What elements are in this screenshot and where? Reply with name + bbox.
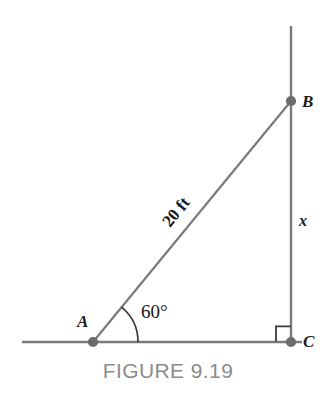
side-label-x: x bbox=[299, 213, 307, 229]
vertex-label-b: B bbox=[302, 93, 313, 110]
figure-caption: FIGURE 9.19 bbox=[0, 360, 336, 381]
vertex-label-a: A bbox=[77, 313, 88, 330]
vertex-label-c: C bbox=[303, 333, 314, 350]
angle-label-60: 60° bbox=[141, 302, 168, 321]
vertex-marker-a bbox=[88, 337, 98, 347]
vertex-marker-c bbox=[286, 337, 296, 347]
figure-container: A B C x 20 ft 60° FIGURE 9.19 bbox=[0, 0, 336, 403]
angle-arc-marker bbox=[122, 307, 138, 342]
geometry-diagram bbox=[0, 0, 336, 403]
vertex-marker-b bbox=[286, 96, 296, 106]
hypotenuse-line bbox=[93, 101, 291, 342]
